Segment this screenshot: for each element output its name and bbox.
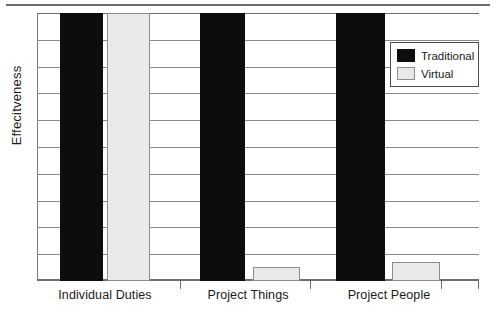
x-tick-label-project-people: Project People xyxy=(348,288,431,302)
bar-individual-duties-traditional xyxy=(60,13,103,281)
gridline-2 xyxy=(37,227,479,228)
gridline-1 xyxy=(37,254,479,255)
bar-project-things-traditional xyxy=(200,13,245,281)
legend-swatch-traditional-icon xyxy=(397,49,415,62)
gridline-5 xyxy=(37,147,479,148)
gridline-9 xyxy=(37,40,479,41)
legend-label-traditional: Traditional xyxy=(421,50,474,62)
x-axis-tick-2 xyxy=(441,281,442,289)
legend-entry-virtual: Virtual xyxy=(397,66,453,81)
legend-entry-traditional: Traditional xyxy=(397,48,474,63)
legend-swatch-virtual-icon xyxy=(397,67,415,80)
legend-label-virtual: Virtual xyxy=(421,68,453,80)
chart-legend: Traditional Virtual xyxy=(390,42,479,87)
bar-project-people-traditional xyxy=(336,13,385,281)
x-axis-tick-3 xyxy=(478,281,479,289)
gridline-3 xyxy=(37,201,479,202)
x-axis-tick-0 xyxy=(180,281,181,289)
x-tick-label-individual-duties: Individual Duties xyxy=(58,288,151,302)
bar-project-things-virtual xyxy=(253,267,300,281)
y-axis-line xyxy=(37,13,38,281)
gridline-7 xyxy=(37,93,479,94)
x-tick-label-project-things: Project Things xyxy=(207,288,288,302)
bar-individual-duties-virtual xyxy=(107,13,150,281)
x-axis-tick-1 xyxy=(310,281,311,289)
gridline-top xyxy=(37,13,479,14)
top-divider-rule xyxy=(6,4,490,6)
gridline-4 xyxy=(37,174,479,175)
bar-chart-figure: Effecitveness Individual Duties Project … xyxy=(0,0,496,315)
y-axis-title: Effecitveness xyxy=(9,6,24,206)
bar-project-people-virtual xyxy=(392,262,440,281)
gridline-6 xyxy=(37,120,479,121)
